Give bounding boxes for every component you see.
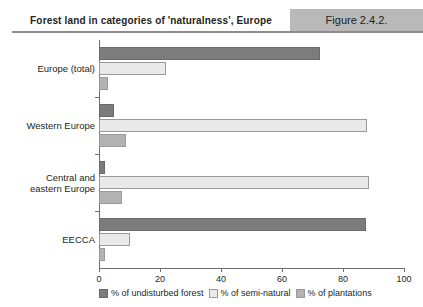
bar (99, 218, 366, 231)
figure-header-bar: Forest land in categories of 'naturalnes… (12, 9, 423, 31)
x-axis-tick-label: 0 (96, 274, 101, 284)
y-axis-category-label: Central andeastern Europe (3, 172, 95, 194)
y-axis-category-label: Europe (total) (3, 63, 95, 74)
plot-area: 020406080100 (99, 40, 404, 268)
bar-group (99, 161, 404, 204)
bar (99, 119, 367, 132)
x-axis-line (99, 268, 404, 269)
legend-swatch-icon (209, 289, 218, 298)
bar (99, 233, 130, 246)
legend-item: % of semi-natural (209, 288, 291, 298)
figure-title: Forest land in categories of 'naturalnes… (30, 15, 272, 26)
x-axis-tick (404, 268, 405, 272)
bar (99, 176, 369, 189)
bar-group (99, 47, 404, 90)
bar-group (99, 104, 404, 147)
x-axis-tick (221, 268, 222, 272)
header-divider (12, 31, 423, 33)
y-axis-category-label: EECCA (3, 234, 95, 245)
y-axis-tick (95, 211, 99, 212)
legend-label: % of semi-natural (221, 288, 291, 298)
legend-item: % of plantations (296, 288, 372, 298)
bar (99, 191, 122, 204)
x-axis-tick-label: 80 (338, 274, 348, 284)
x-axis-tick (282, 268, 283, 272)
x-axis-tick-label: 20 (155, 274, 165, 284)
legend-swatch-icon (99, 289, 108, 298)
x-axis-tick-label: 60 (277, 274, 287, 284)
bar (99, 62, 166, 75)
bar (99, 104, 114, 117)
y-axis-category-label: Western Europe (3, 120, 95, 131)
bar (99, 134, 126, 147)
chart: Europe (total)Western EuropeCentral ande… (0, 38, 423, 283)
bar (99, 47, 320, 60)
legend-item: % of undisturbed forest (99, 288, 204, 298)
figure-title-block: Forest land in categories of 'naturalnes… (12, 9, 290, 31)
y-axis-tick (95, 97, 99, 98)
x-axis-tick (99, 268, 100, 272)
chart-legend: % of undisturbed forest% of semi-natural… (99, 288, 419, 298)
legend-swatch-icon (296, 289, 305, 298)
x-axis-tick-label: 100 (396, 274, 411, 284)
x-axis-tick-label: 40 (216, 274, 226, 284)
legend-label: % of plantations (308, 288, 372, 298)
bar (99, 248, 105, 261)
y-axis-category-labels: Europe (total)Western EuropeCentral ande… (0, 40, 95, 268)
x-axis-tick (160, 268, 161, 272)
figure-number: Figure 2.4.2. (326, 14, 388, 26)
legend-label: % of undisturbed forest (111, 288, 204, 298)
bar (99, 77, 108, 90)
y-axis-tick (95, 154, 99, 155)
figure-number-block: Figure 2.4.2. (290, 9, 423, 31)
bar-group (99, 218, 404, 261)
x-axis-tick (343, 268, 344, 272)
bar (99, 161, 105, 174)
